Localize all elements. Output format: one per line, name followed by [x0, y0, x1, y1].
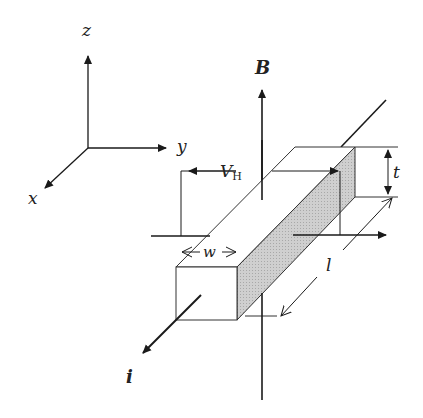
current-label: i [126, 366, 133, 387]
back-current-lead [341, 100, 386, 147]
thickness-label: t [393, 162, 400, 182]
coordinate-axes [45, 56, 166, 188]
length-arrow-lower [281, 277, 317, 316]
width-label: w [203, 243, 216, 261]
current-arrow [143, 295, 201, 353]
length-arrow-upper [343, 198, 392, 250]
b-field-label: B [254, 57, 270, 78]
x-axis-label: x [28, 188, 38, 208]
length-label: l [326, 255, 331, 275]
hall-effect-diagram: z y x B VH w t l i [0, 0, 423, 418]
x-axis [45, 148, 88, 188]
y-axis-label: y [176, 136, 187, 156]
diagram-svg: z y x B VH w t l i [0, 0, 423, 418]
hall-voltage-label: VH [220, 161, 242, 183]
z-axis-label: z [81, 20, 92, 40]
